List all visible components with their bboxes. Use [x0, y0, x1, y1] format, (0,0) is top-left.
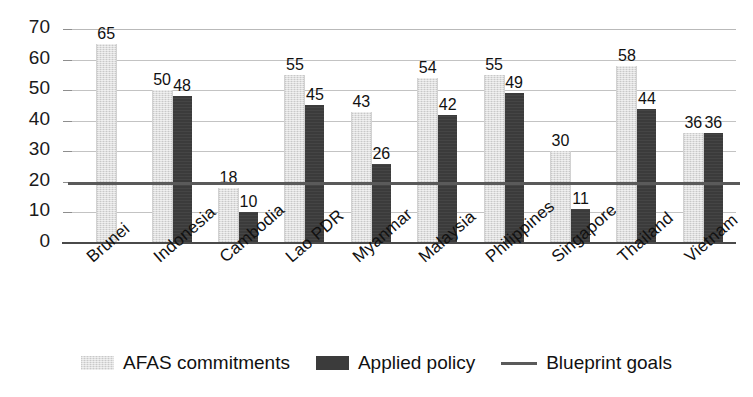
- legend-label: Blueprint goals: [546, 352, 672, 374]
- bar-afas-commitments[interactable]: 65: [96, 44, 117, 243]
- bar-afas-commitments[interactable]: 30: [550, 151, 571, 243]
- y-tick-mark: [63, 151, 72, 152]
- chart-legend: AFAS commitmentsApplied policyBlueprint …: [0, 352, 753, 374]
- bar-value-label: 44: [638, 91, 656, 107]
- legend-color-swatch-icon: [81, 356, 114, 370]
- y-tick-mark: [63, 60, 72, 61]
- legend-label: Applied policy: [358, 352, 475, 374]
- bar-afas-commitments[interactable]: 50: [152, 90, 173, 243]
- bar-afas-commitments[interactable]: 43: [351, 112, 372, 243]
- bar-value-label: 10: [240, 194, 258, 210]
- bar-value-label: 42: [439, 97, 457, 113]
- legend-line-swatch-icon: [501, 362, 537, 365]
- bar-afas-commitments[interactable]: 55: [484, 75, 505, 243]
- bar-value-label: 50: [153, 72, 171, 88]
- bar-value-label: 26: [372, 146, 390, 162]
- bar-value-label: 30: [552, 133, 570, 149]
- y-tick-value: 30: [29, 138, 50, 160]
- bar-value-label: 65: [97, 26, 115, 42]
- bar-value-label: 36: [704, 115, 722, 131]
- y-tick-mark: [63, 121, 72, 122]
- reference-line-blueprint-goals: [68, 182, 740, 185]
- y-tick-value: 40: [29, 108, 50, 130]
- y-tick-value: 50: [29, 77, 50, 99]
- legend-item[interactable]: Blueprint goals: [501, 352, 672, 374]
- legend-label: AFAS commitments: [123, 352, 290, 374]
- y-tick-value: 20: [29, 169, 50, 191]
- bar-group: 4326: [338, 29, 404, 243]
- bar-value-label: 49: [505, 75, 523, 91]
- bar-value-label: 11: [572, 191, 589, 207]
- y-tick-mark: [63, 212, 72, 213]
- y-tick-mark: [63, 29, 72, 30]
- y-tick-value: 0: [39, 230, 50, 252]
- bar-group: 3636: [670, 29, 736, 243]
- bar-afas-commitments[interactable]: 54: [417, 78, 438, 243]
- bar-value-label: 58: [618, 48, 636, 64]
- bar-value-label: 45: [306, 87, 324, 103]
- y-tick-value: 60: [29, 47, 50, 69]
- bar-value-label: 36: [684, 115, 702, 131]
- bar-value-label: 55: [286, 57, 304, 73]
- bar-afas-commitments[interactable]: 36: [683, 133, 704, 243]
- legend-color-swatch-icon: [316, 356, 349, 370]
- bar-value-label: 55: [485, 57, 503, 73]
- bar-afas-commitments[interactable]: 55: [284, 75, 305, 243]
- y-tick-value: 10: [29, 199, 50, 221]
- bar-group: 5048: [138, 29, 204, 243]
- y-tick-mark: [63, 90, 72, 91]
- bar-value-label: 54: [419, 60, 437, 76]
- bar-value-label: 48: [173, 78, 191, 94]
- bar-chart: 010203040506070 655048181055454326544255…: [0, 0, 753, 397]
- y-tick-value: 70: [29, 16, 50, 38]
- legend-item[interactable]: Applied policy: [316, 352, 475, 374]
- bar-group: 5549: [470, 29, 536, 243]
- bar-group: 65: [72, 29, 138, 243]
- legend-item[interactable]: AFAS commitments: [81, 352, 290, 374]
- bar-value-label: 43: [352, 94, 370, 110]
- bar-afas-commitments[interactable]: 58: [616, 66, 637, 243]
